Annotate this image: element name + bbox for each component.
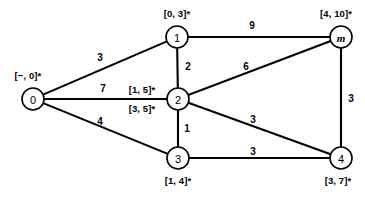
node-annotation-m-0: [4, 10]* xyxy=(320,9,352,19)
node-label-1: 1 xyxy=(174,32,180,43)
edges-group xyxy=(43,37,341,158)
node-label-2: 2 xyxy=(175,94,181,105)
node-label-3: 3 xyxy=(175,153,181,164)
node-annotation-1-0: [0, 3]* xyxy=(164,9,191,19)
edge-1-2 xyxy=(177,48,178,88)
network-diagram: 37492613330[−, 0]*1[0, 3]*2[1, 5]*[3, 5]… xyxy=(0,0,365,200)
node-label-0: 0 xyxy=(30,94,36,105)
edge-weight-0-2: 7 xyxy=(100,84,106,94)
edge-weight-0-1: 3 xyxy=(97,53,103,63)
node-annotation-2-1: [3, 5]* xyxy=(129,104,156,114)
node-annotation-4-0: [3, 7]* xyxy=(325,176,352,186)
graph-canvas xyxy=(0,0,365,200)
edge-2-m xyxy=(188,41,330,95)
edge-weight-2-m: 6 xyxy=(243,62,249,72)
node-label-4: 4 xyxy=(338,153,344,164)
node-annotation-3-0: [1, 4]* xyxy=(165,176,192,186)
edge-weight-m-4: 3 xyxy=(348,94,354,104)
edge-weight-2-3: 1 xyxy=(184,124,190,134)
nodes-group xyxy=(22,26,352,169)
node-annotation-2-0: [1, 5]* xyxy=(129,85,156,95)
node-annotation-0-0: [−, 0]* xyxy=(15,71,42,81)
edge-weight-0-3: 4 xyxy=(97,117,103,127)
edge-weight-3-4: 3 xyxy=(250,147,256,157)
edge-weight-2-4: 3 xyxy=(250,115,256,125)
node-label-m: m xyxy=(337,32,346,43)
edge-2-4 xyxy=(188,103,330,155)
edge-weight-1-2: 2 xyxy=(185,62,191,72)
edge-weight-1-m: 9 xyxy=(249,21,255,31)
